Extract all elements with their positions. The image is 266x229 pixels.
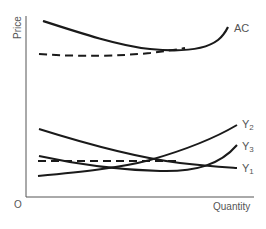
y-axis-label: Price — [12, 16, 23, 39]
y2-label: Y2 — [242, 118, 254, 132]
origin-label: O — [14, 199, 22, 210]
y1-label: Y1 — [242, 162, 254, 176]
y3-label: Y3 — [242, 140, 254, 154]
ac-label: AC — [234, 22, 249, 34]
chart: Price O Quantity AC Y1 Y2 Y3 — [0, 0, 266, 229]
ac-curve — [43, 21, 228, 50]
y2-curve — [38, 125, 237, 176]
x-axis-label: Quantity — [213, 201, 250, 212]
y3-curve — [39, 145, 237, 171]
